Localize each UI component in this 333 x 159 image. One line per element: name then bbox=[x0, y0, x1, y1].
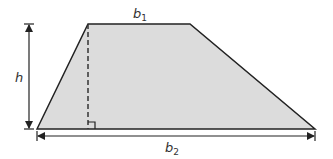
bottom-base-label: b2 bbox=[165, 140, 179, 157]
trapezoid-shape bbox=[37, 24, 315, 129]
top-base-label: b1 bbox=[133, 6, 147, 23]
height-arrow bbox=[24, 24, 34, 129]
trapezoid-diagram: b1 h b2 bbox=[0, 0, 333, 159]
bottom-base-arrow bbox=[37, 131, 315, 141]
height-label: h bbox=[15, 70, 23, 85]
